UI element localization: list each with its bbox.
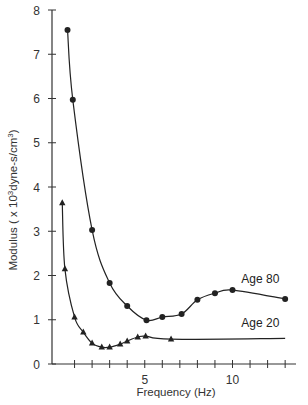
- circle-marker-icon: [282, 296, 288, 302]
- x-axis-title: Frequency (Hz): [136, 386, 215, 398]
- y-tick-label: 7: [33, 48, 40, 62]
- y-tick-label: 8: [33, 4, 40, 18]
- series-label: Age 80: [241, 272, 279, 286]
- x-axis: 510: [52, 360, 296, 387]
- y-tick-label: 5: [33, 136, 40, 150]
- circle-marker-icon: [89, 227, 95, 233]
- y-tick-label: 6: [33, 92, 40, 106]
- series-label: Age 20: [241, 316, 279, 330]
- circle-marker-icon: [65, 27, 71, 33]
- circle-marker-icon: [159, 314, 165, 320]
- y-tick-label: 4: [33, 181, 40, 195]
- series-age-80: Age 80: [65, 27, 289, 323]
- circle-marker-icon: [70, 97, 76, 103]
- circle-marker-icon: [124, 303, 130, 309]
- y-axis-title: Modulus ( x 103dyne-s/cm3): [6, 129, 20, 270]
- x-tick-label: 10: [226, 373, 240, 387]
- circle-marker-icon: [179, 311, 185, 317]
- x-tick-label: 5: [141, 373, 148, 387]
- y-tick-label: 3: [33, 225, 40, 239]
- series-layer: Age 80Age 20: [59, 27, 288, 350]
- y-tick-label: 0: [33, 358, 40, 372]
- circle-marker-icon: [194, 297, 200, 303]
- triangle-marker-icon: [59, 199, 65, 205]
- circle-marker-icon: [212, 290, 218, 296]
- y-axis: 012345678: [33, 4, 56, 372]
- triangle-marker-icon: [62, 265, 68, 271]
- y-tick-label: 2: [33, 269, 40, 283]
- circle-marker-icon: [230, 287, 236, 293]
- line-chart: 012345678 510 Age 80Age 20 Frequency (Hz…: [0, 0, 308, 405]
- circle-marker-icon: [144, 317, 150, 323]
- triangle-marker-icon: [71, 313, 77, 319]
- y-tick-label: 1: [33, 313, 40, 327]
- circle-marker-icon: [107, 280, 113, 286]
